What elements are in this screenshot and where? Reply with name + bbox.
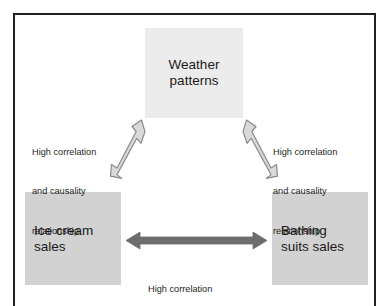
edge-label-right-line-1: High correlation: [273, 146, 337, 159]
edge-label-right-line-2: and causality: [273, 185, 337, 198]
weather-to-ice-cream-edge-label: High correlation and causality relations…: [32, 120, 96, 264]
weather-patterns-label-line-1: Weather: [169, 57, 220, 73]
weather-to-bathing-suits-edge-label: High correlation and causality relations…: [273, 120, 337, 264]
edge-label-bottom-line-1: High correlation: [148, 283, 212, 296]
edge-label-right-line-3: relationship: [273, 225, 337, 238]
ice-cream-to-bathing-suits-edge-label: High correlation but no causality relati…: [148, 257, 212, 306]
edge-label-left-line-3: relationship: [32, 225, 96, 238]
weather-patterns-node[interactable]: Weather patterns: [145, 28, 243, 118]
diagram-root: Weather patterns Ice cream sales Bathing…: [0, 0, 383, 306]
weather-patterns-label-line-2: patterns: [170, 73, 219, 89]
edge-label-left-line-2: and causality: [32, 185, 96, 198]
edge-label-left-line-1: High correlation: [32, 146, 96, 159]
